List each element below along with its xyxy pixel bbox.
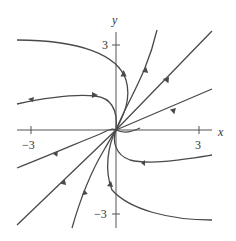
y-tick-label-neg3: −3 — [94, 207, 107, 221]
phase-portrait-svg: y x −3 3 3 −3 — [0, 0, 236, 241]
y-axis-label: y — [111, 13, 118, 27]
phase-portrait-figure: y x −3 3 3 −3 — [0, 0, 236, 241]
arrow-icon — [170, 107, 178, 115]
x-tick-label-neg3: −3 — [22, 138, 35, 152]
arrow-icon — [52, 151, 60, 158]
x-tick-label-3: 3 — [195, 138, 201, 152]
arrow-icon — [92, 92, 98, 98]
y-tick-label-3: 3 — [102, 38, 108, 52]
arrow-icon — [60, 179, 68, 187]
x-axis-label: x — [217, 125, 224, 139]
trajectory-eigenline-1 — [17, 31, 212, 225]
arrow-icon — [141, 160, 145, 166]
trajectory-shallow-right — [116, 89, 212, 130]
trajectory-top-left-arc — [17, 40, 128, 130]
